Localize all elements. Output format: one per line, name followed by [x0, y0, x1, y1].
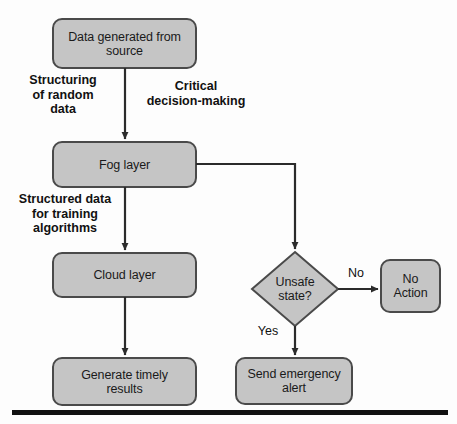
node-fog-layer[interactable] — [53, 142, 196, 187]
node-unsafe-state-decision[interactable] — [252, 252, 338, 326]
edge-label-critical-decision-making: Critical decision-making — [136, 79, 256, 108]
flowchart-canvas: Data generated from source Fog layer Clo… — [0, 0, 457, 424]
edge-label-structured-data-for-training: Structured data for training algorithms — [6, 192, 124, 236]
node-no-action[interactable] — [381, 260, 440, 312]
edge-label-yes: Yes — [252, 324, 284, 339]
edge-fog-to-unsafe — [196, 164, 295, 249]
footer-rule — [12, 410, 448, 415]
node-cloud-layer[interactable] — [53, 253, 196, 297]
node-data-source[interactable] — [53, 19, 196, 68]
edge-label-structuring-of-random-data: Structuring of random data — [18, 73, 108, 117]
node-send-alert[interactable] — [236, 358, 352, 404]
node-generate-results[interactable] — [53, 358, 196, 405]
edge-label-no: No — [342, 266, 370, 281]
